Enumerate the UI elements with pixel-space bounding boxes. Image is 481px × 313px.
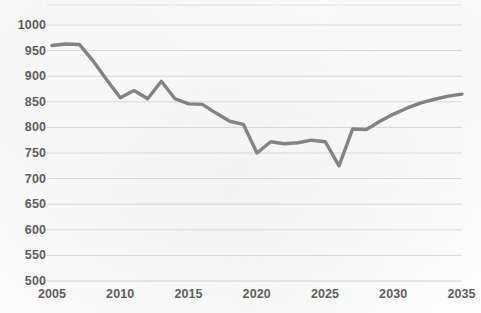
ytick-label-700: 700 bbox=[0, 172, 46, 186]
plot-area bbox=[0, 0, 481, 313]
ytick-label-550: 550 bbox=[0, 248, 46, 262]
xtick-label-2030: 2030 bbox=[365, 287, 421, 301]
ytick-label-650: 650 bbox=[0, 197, 46, 211]
xtick-label-2010: 2010 bbox=[92, 287, 148, 301]
ytick-label-750: 750 bbox=[0, 146, 46, 160]
ytick-label-1000: 1000 bbox=[0, 18, 46, 32]
xtick-label-2005: 2005 bbox=[24, 287, 80, 301]
ytick-label-950: 950 bbox=[0, 44, 46, 58]
xtick-label-2015: 2015 bbox=[161, 287, 217, 301]
ytick-label-500: 500 bbox=[0, 274, 46, 288]
xtick-label-2035: 2035 bbox=[434, 287, 481, 301]
line-chart: 1000 950 900 850 800 750 700 650 600 550… bbox=[0, 0, 481, 313]
ytick-label-600: 600 bbox=[0, 223, 46, 237]
ytick-label-800: 800 bbox=[0, 120, 46, 134]
xtick-label-2025: 2025 bbox=[297, 287, 353, 301]
ytick-label-850: 850 bbox=[0, 95, 46, 109]
grid-lines bbox=[47, 5, 462, 281]
ytick-label-900: 900 bbox=[0, 69, 46, 83]
xtick-label-2020: 2020 bbox=[229, 287, 285, 301]
data-series-line bbox=[52, 44, 462, 166]
